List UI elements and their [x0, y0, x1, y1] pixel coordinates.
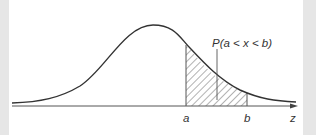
- probability-annotation: P(a < x < b): [212, 37, 272, 49]
- normal-distribution-diagram: P(a < x < b) a b z: [0, 0, 316, 135]
- marker-a-label: a: [183, 112, 189, 124]
- z-axis: [12, 104, 298, 109]
- marker-b-label: b: [244, 112, 251, 124]
- axis-z-label: z: [289, 112, 296, 124]
